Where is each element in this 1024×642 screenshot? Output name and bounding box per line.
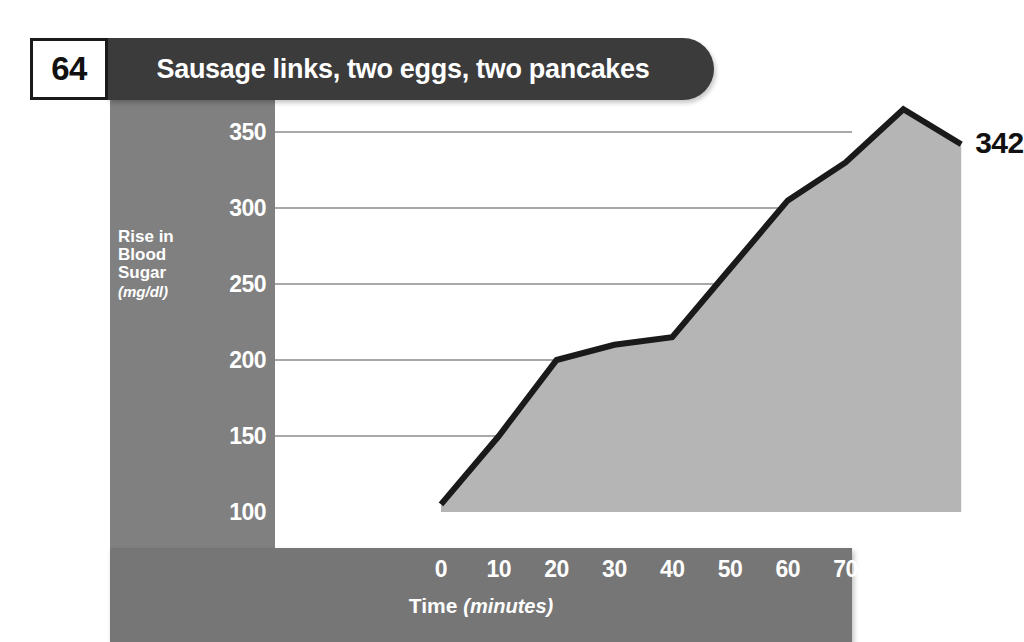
y-tick-label: 350 <box>229 119 266 146</box>
page-number: 64 <box>51 50 87 88</box>
x-tick-label: 90 <box>949 556 974 583</box>
x-tick-label: 20 <box>544 556 569 583</box>
x-axis-units: (minutes) <box>463 595 553 617</box>
chart-frame: Rise in Blood Sugar (mg/dl) 100150200250… <box>110 100 852 595</box>
y-tick-label: 150 <box>229 423 266 450</box>
y-tick-label: 200 <box>229 347 266 374</box>
y-axis-units: (mg/dl) <box>118 284 214 300</box>
x-tick-label: 50 <box>718 556 743 583</box>
area-fill-shape <box>441 109 961 512</box>
chart-title-bar: Sausage links, two eggs, two pancakes <box>108 38 714 100</box>
data-series-svg <box>275 100 975 548</box>
x-tick-label: 40 <box>660 556 685 583</box>
x-tick-label: 0 <box>435 556 447 583</box>
x-axis-panel: 0102030405060708090 Time (minutes) <box>110 548 852 642</box>
x-tick-label: 80 <box>891 556 916 583</box>
x-tick-label: 70 <box>833 556 858 583</box>
x-tick-label: 60 <box>776 556 801 583</box>
x-axis-title: Time (minutes) <box>110 594 852 618</box>
y-axis-title-text: Rise in Blood Sugar <box>118 227 174 282</box>
y-tick-label: 250 <box>229 271 266 298</box>
page-number-box: 64 <box>30 38 108 100</box>
y-axis-panel: Rise in Blood Sugar (mg/dl) 100150200250… <box>110 100 275 548</box>
y-tick-label: 300 <box>229 195 266 222</box>
end-value-annotation: 342 <box>975 126 1024 160</box>
x-tick-label: 10 <box>487 556 512 583</box>
x-axis-title-text: Time <box>409 594 458 617</box>
y-tick-label: 100 <box>229 499 266 526</box>
x-tick-label: 30 <box>602 556 627 583</box>
chart-title: Sausage links, two eggs, two pancakes <box>156 54 665 85</box>
y-axis-title: Rise in Blood Sugar (mg/dl) <box>118 228 214 299</box>
plot-area: 342 <box>275 100 852 548</box>
